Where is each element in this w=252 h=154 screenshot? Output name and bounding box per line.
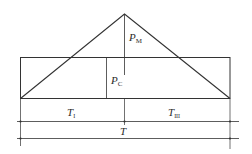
dim-tick-left-2	[19, 137, 21, 139]
label-t3: TIII	[168, 106, 180, 119]
load-diagram: PM PC TI TIII T	[0, 0, 252, 154]
peak-load-triangle	[21, 14, 231, 99]
label-t1: TI	[67, 106, 75, 119]
label-pc: PC	[110, 74, 123, 88]
dim-tick-right-1	[229, 120, 231, 122]
constant-load-rectangle	[21, 58, 231, 99]
dim-tick-right-2	[229, 137, 231, 139]
dim-tick-center-1	[123, 120, 125, 122]
dim-tick-left-1	[19, 120, 21, 122]
label-t: T	[120, 125, 127, 137]
label-pm: PM	[128, 31, 143, 45]
